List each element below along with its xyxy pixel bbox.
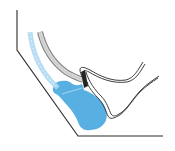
diagram-canvas — [0, 0, 175, 151]
